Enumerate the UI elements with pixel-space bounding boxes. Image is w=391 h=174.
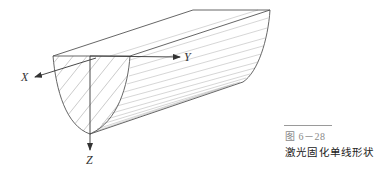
figure-number: 图 6－28 — [285, 128, 326, 143]
figure-caption: 激光固化单线形状 — [285, 144, 375, 159]
coordinate-axes — [35, 56, 180, 150]
body-outline — [53, 10, 270, 134]
y-axis-label: Y — [184, 50, 192, 64]
y-axis — [90, 56, 180, 57]
side-surface-hatch — [93, 10, 268, 132]
caption-divider — [284, 125, 332, 126]
z-axis-label: Z — [86, 153, 93, 167]
x-axis-label: X — [20, 70, 29, 84]
